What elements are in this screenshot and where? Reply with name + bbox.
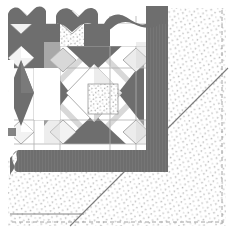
quilt-top-group [8,10,152,150]
border-band-bottom [14,150,168,172]
border-band-right [146,6,168,152]
quilt-svg [0,0,235,242]
left-notch [8,128,16,136]
quilt-illustration-canvas: Quilt block medallion with stippled back… [0,0,235,242]
center-printed-square [88,84,118,114]
